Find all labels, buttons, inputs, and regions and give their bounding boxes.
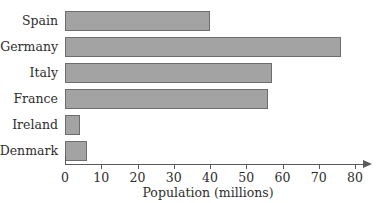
bar-row <box>65 115 355 135</box>
category-label-italy: Italy <box>0 63 58 83</box>
x-axis-tick <box>319 164 320 169</box>
x-axis-title-text: Population (millions) <box>106 185 273 200</box>
x-axis-tick <box>210 164 211 169</box>
category-label-germany: Germany <box>0 37 58 57</box>
plot-area <box>65 9 355 164</box>
x-axis-tick-label: 60 <box>263 170 303 185</box>
x-axis-tick-label: 80 <box>335 170 375 185</box>
x-axis-tick <box>101 164 102 169</box>
x-axis-tick-label: 30 <box>154 170 194 185</box>
bar-row <box>65 37 355 57</box>
bar-denmark <box>65 141 87 161</box>
x-axis-tick-label: 70 <box>299 170 339 185</box>
bar-row <box>65 11 355 31</box>
x-axis-tick-label: 50 <box>226 170 266 185</box>
x-axis-tick-label: 0 <box>45 170 85 185</box>
category-label-france: France <box>0 89 58 109</box>
x-axis-tick-label: 40 <box>190 170 230 185</box>
bar-row <box>65 89 355 109</box>
x-axis-line <box>65 164 365 165</box>
x-axis-tick <box>138 164 139 169</box>
x-axis-tick <box>283 164 284 169</box>
bar-germany <box>65 37 341 57</box>
x-axis-tick <box>246 164 247 169</box>
bar-ireland <box>65 115 80 135</box>
category-label-ireland: Ireland <box>0 115 58 135</box>
x-axis-title: Population (millions) <box>0 185 380 200</box>
x-axis-tick-label: 10 <box>81 170 121 185</box>
category-label-denmark: Denmark <box>0 141 58 161</box>
x-axis-tick <box>355 164 356 169</box>
x-axis-tick-label: 20 <box>118 170 158 185</box>
bar-italy <box>65 63 272 83</box>
bar-spain <box>65 11 210 31</box>
x-axis-arrowhead-icon <box>363 160 372 168</box>
bar-chart: Population (millions) SpainGermanyItalyF… <box>0 0 380 203</box>
category-label-spain: Spain <box>0 11 58 31</box>
bar-france <box>65 89 268 109</box>
x-axis-tick <box>174 164 175 169</box>
bar-row <box>65 141 355 161</box>
bar-row <box>65 63 355 83</box>
